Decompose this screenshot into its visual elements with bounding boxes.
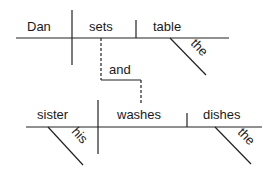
clause1-verb: sets <box>89 19 113 34</box>
conjunction-word: and <box>109 62 131 77</box>
sentence-diagram: Dan sets table the and sister washes dis… <box>0 0 273 172</box>
clause2-subject: sister <box>37 107 69 122</box>
clause1-subject: Dan <box>27 19 51 34</box>
clause2-verb: washes <box>116 107 162 122</box>
clause1-object: table <box>153 19 181 34</box>
clause2-object-modifier: the <box>235 125 258 148</box>
clause1-object-modifier: the <box>188 36 211 59</box>
clause2-object: dishes <box>203 107 241 122</box>
